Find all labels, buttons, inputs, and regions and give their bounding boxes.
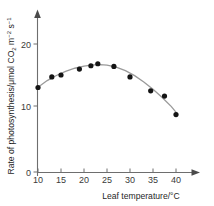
x-tick-label-10: 10 [33, 175, 43, 185]
data-point [35, 85, 40, 90]
y-axis-title: Rate of photosynthesis/μmol CO2 m−2 s−1 [6, 17, 17, 175]
y-axis-title-main: Rate of photosynthesis/μmol CO [6, 50, 16, 174]
x-axis-title: Leaf temperature/°C [102, 191, 180, 201]
y-tick-label-20: 20 [21, 40, 31, 50]
data-point [111, 64, 116, 69]
x-tick-label-20: 20 [79, 175, 89, 185]
x-axis-title-group: Leaf temperature/°C [102, 191, 180, 201]
data-point [58, 72, 63, 77]
x-axis-arrow-icon [192, 169, 201, 176]
data-point [49, 74, 54, 79]
data-point [173, 112, 178, 117]
y-axis-title-group: Rate of photosynthesis/μmol CO2 m−2 s−1 [6, 17, 17, 175]
x-tick-label-30: 30 [125, 175, 135, 185]
y-tick-label-10: 10 [21, 102, 31, 112]
data-point [88, 63, 93, 68]
y-tick-label-0: 0 [26, 168, 31, 178]
x-tick-label-15: 15 [56, 175, 66, 185]
y-axis-title-s: s [6, 24, 16, 31]
y-axis-title-s-sup: −1 [6, 17, 12, 25]
data-point [148, 88, 153, 93]
data-point [95, 61, 100, 66]
x-tick-label-35: 35 [148, 175, 158, 185]
data-point [162, 94, 167, 99]
y-axis-title-m: m [6, 38, 16, 48]
chart-page: 0 10 20 10 15 20 25 30 35 40 R [0, 0, 214, 206]
x-tick-label-40: 40 [171, 175, 181, 185]
x-tick-label-25: 25 [102, 175, 112, 185]
x-axis-title-degree: °C [170, 191, 180, 201]
photosynthesis-temperature-chart: 0 10 20 10 15 20 25 30 35 40 R [0, 0, 214, 206]
data-point [127, 74, 132, 79]
x-axis-group: 10 15 20 25 30 35 40 [33, 169, 200, 185]
data-point [77, 66, 82, 71]
x-axis-title-main: Leaf temperature/ [102, 191, 170, 201]
y-axis-arrow-icon [34, 10, 41, 19]
data-markers-group [35, 61, 178, 117]
trend-curve [38, 65, 177, 114]
series-group [35, 61, 178, 117]
y-axis-group: 0 10 20 [21, 10, 41, 178]
